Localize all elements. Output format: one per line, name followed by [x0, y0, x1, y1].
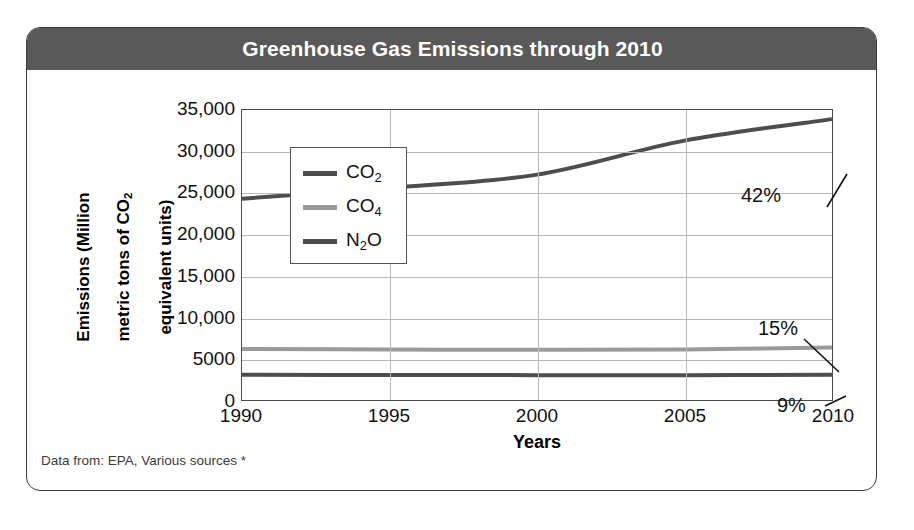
legend-item: CO2 [303, 156, 406, 190]
legend-swatch [303, 171, 337, 176]
legend-label-subscript: 4 [375, 204, 382, 219]
x-axis-tick-labels: 19901995200020052010 [241, 405, 833, 433]
gridline-vertical [686, 110, 687, 400]
series-line-n2o [242, 375, 832, 376]
legend-label: CO4 [346, 195, 382, 219]
annotation-co2-percent: 42% [741, 184, 781, 207]
source-note: Data from: EPA, Various sources * [41, 453, 246, 468]
x-axis-tick-label: 2010 [812, 405, 854, 427]
legend-label-subscript: 2 [375, 170, 382, 185]
y-axis-tick-label: 30,000 [139, 140, 235, 162]
page-title: Greenhouse Gas Emissions through 2010 [242, 37, 662, 61]
x-axis-title: Years [241, 432, 833, 453]
legend-item: N2O [303, 224, 406, 258]
y-axis-title-line1: Emissions (Million [74, 192, 93, 341]
legend-label: CO2 [346, 161, 382, 185]
legend-label: N2O [346, 229, 382, 253]
y-axis-tick-labels: 0500010,00015,00020,00025,00030,00035,00… [131, 109, 235, 401]
annotation-co4-percent: 15% [758, 317, 798, 340]
y-axis-tick-label: 35,000 [139, 98, 235, 120]
chart-title-bar: Greenhouse Gas Emissions through 2010 [26, 27, 877, 70]
legend-label-subscript: 2 [360, 238, 367, 253]
chart-card: Greenhouse Gas Emissions through 2010 Em… [26, 27, 877, 491]
legend: CO2CO4N2O [290, 147, 407, 264]
y-axis-tick-label: 25,000 [139, 181, 235, 203]
legend-swatch [303, 205, 337, 210]
y-axis-tick-label: 20,000 [139, 223, 235, 245]
legend-swatch [303, 239, 337, 244]
y-axis-tick-label: 5000 [139, 348, 235, 370]
x-axis-tick-label: 2000 [516, 405, 558, 427]
series-line-co4 [242, 347, 832, 349]
gridline-horizontal [242, 277, 832, 278]
x-axis-tick-label: 1995 [368, 405, 410, 427]
y-axis-tick-label: 15,000 [139, 265, 235, 287]
gridline-horizontal [242, 319, 832, 320]
y-axis-tick-label: 10,000 [139, 307, 235, 329]
x-axis-tick-label: 1990 [220, 405, 262, 427]
gridline-horizontal [242, 360, 832, 361]
legend-item: CO4 [303, 190, 406, 224]
annotation-n2o-percent: 9% [777, 394, 806, 417]
x-axis-tick-label: 2005 [664, 405, 706, 427]
gridline-vertical [538, 110, 539, 400]
